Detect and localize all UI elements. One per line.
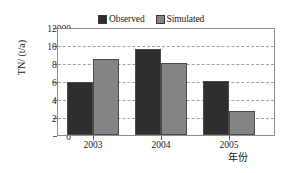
chart-legend: Observed Simulated (98, 12, 218, 26)
legend-entry-simulated: Simulated (156, 14, 205, 24)
x-tick-label-2004: 2004 (138, 140, 184, 150)
gridline-4000 (58, 100, 274, 101)
legend-label-observed: Observed (109, 14, 145, 24)
x-tick-label-2003: 2003 (70, 140, 116, 150)
x-axis-title: 年份 (228, 152, 248, 163)
gridline-10000 (58, 46, 274, 47)
gridline-2000 (58, 118, 274, 119)
gridline-6000 (58, 82, 274, 83)
x-tick-label-2005: 2005 (206, 140, 252, 150)
gridline-8000 (58, 64, 274, 65)
plot-area (57, 28, 275, 136)
bar-chart: Observed Simulated TN/ (t/a) 12000 10000… (0, 0, 292, 173)
y-tick-mark-0 (53, 136, 57, 137)
legend-swatch-simulated (156, 15, 165, 24)
legend-entry-observed: Observed (98, 14, 145, 24)
legend-label-simulated: Simulated (167, 14, 205, 24)
legend-swatch-observed (98, 15, 107, 24)
